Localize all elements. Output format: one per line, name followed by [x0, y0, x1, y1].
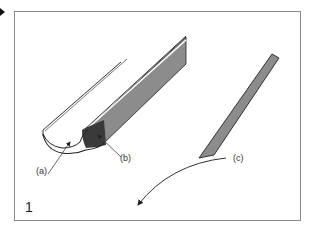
leader-a	[48, 142, 70, 174]
label-a: (a)	[36, 166, 47, 176]
label-c: (c)	[233, 153, 244, 163]
gouge-tool	[43, 36, 186, 154]
gouge-illustration	[0, 0, 312, 228]
figure-number: 1	[25, 199, 33, 215]
label-b: (b)	[120, 153, 131, 163]
chisel-tool	[199, 54, 279, 158]
curved-arrow	[138, 158, 226, 205]
